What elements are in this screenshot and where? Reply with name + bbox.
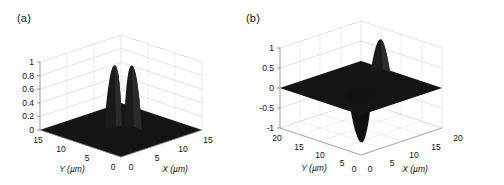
figure-container: (a) bbox=[0, 0, 504, 185]
z-tick-a-0: 0 bbox=[29, 125, 34, 135]
y-axis-label-b: Y (µm) bbox=[301, 163, 327, 173]
x-tick-a-3: 15 bbox=[203, 135, 213, 145]
z-tick-a-1: 0.2 bbox=[22, 111, 34, 121]
z-tick-a-3: 0.6 bbox=[22, 84, 34, 94]
panel-b: (b) bbox=[252, 0, 504, 185]
x-tick-a-0: 0 bbox=[129, 162, 134, 172]
x-tick-b-2: 10 bbox=[409, 150, 419, 160]
x-tick-b-4: 20 bbox=[453, 133, 463, 143]
z-tick-a-5: 1 bbox=[29, 57, 34, 67]
z-tick-b-1: -0.5 bbox=[259, 103, 274, 113]
y-tick-b-2: 10 bbox=[315, 150, 325, 160]
z-tick-b-3: 0.5 bbox=[262, 63, 274, 73]
x-axis-label-a: X (µm) bbox=[161, 164, 188, 174]
x-tick-b-1: 5 bbox=[390, 158, 395, 168]
x-tick-a-2: 10 bbox=[178, 144, 188, 154]
x-axis-label-b: X (µm) bbox=[401, 164, 428, 174]
y-axis-label-a: Y (µm) bbox=[59, 164, 85, 174]
y-tick-b-4: 0 bbox=[352, 164, 357, 174]
x-axis-b: 0 5 10 15 20 X (µm) bbox=[368, 133, 463, 174]
x-tick-b-0: 0 bbox=[368, 164, 373, 174]
y-tick-a-0: 15 bbox=[33, 135, 43, 145]
y-tick-b-3: 5 bbox=[340, 158, 345, 168]
surface-plot-a: 1 0.8 0.6 0.4 0.2 0 15 10 5 0 Y (µm) bbox=[0, 0, 252, 185]
y-tick-a-1: 10 bbox=[56, 144, 66, 154]
z-axis-b: 1 0.5 0 -0.5 -1 bbox=[259, 43, 280, 133]
surface-plot-b: 1 0.5 0 -0.5 -1 20 15 10 5 0 Y (µm) bbox=[252, 0, 504, 185]
y-tick-a-2: 5 bbox=[85, 153, 90, 163]
z-axis-a: 1 0.8 0.6 0.4 0.2 0 bbox=[22, 57, 40, 135]
x-tick-b-3: 15 bbox=[431, 142, 441, 152]
y-tick-b-0: 20 bbox=[272, 133, 282, 143]
x-tick-a-1: 5 bbox=[155, 153, 160, 163]
z-tick-b-4: 1 bbox=[269, 43, 274, 53]
z-tick-b-0: -1 bbox=[266, 123, 274, 133]
z-tick-a-2: 0.4 bbox=[22, 98, 34, 108]
y-tick-a-3: 0 bbox=[111, 162, 116, 172]
panel-a: (a) bbox=[0, 0, 252, 185]
z-tick-a-4: 0.8 bbox=[22, 71, 34, 81]
z-tick-b-2: 0 bbox=[269, 83, 274, 93]
y-tick-b-1: 15 bbox=[294, 142, 304, 152]
